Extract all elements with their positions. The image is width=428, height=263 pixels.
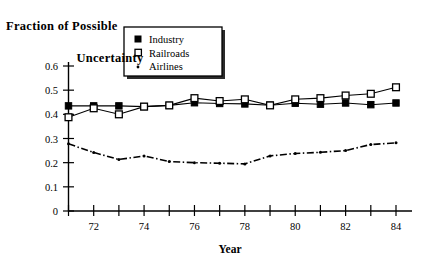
data-point-airlines [117,158,120,161]
data-point-airlines [92,151,95,154]
chart-title-line-1: Fraction of Possible [6,18,196,34]
chart-title: Fraction of Possible Uncertainty [6,2,196,82]
x-axis-ticks: 72747678808284 [69,205,403,232]
y-tick-label: 0.4 [45,109,59,120]
data-point-railroads [367,90,374,97]
y-tick-label: 0.5 [45,85,58,96]
data-point-airlines [269,154,272,157]
data-point-industry [116,103,122,109]
data-series-group [65,84,399,166]
chart-title-line-2: Uncertainty [6,50,196,66]
data-point-industry [65,103,71,109]
data-point-railroads [90,105,97,112]
x-tick-label: 72 [88,221,99,232]
data-point-railroads [342,92,349,99]
y-tick-label: 0 [53,206,58,217]
x-tick-label: 84 [391,221,402,232]
data-point-airlines [369,143,372,146]
x-axis-title: Year [219,243,242,255]
data-point-airlines [395,141,398,144]
data-point-industry [342,100,348,106]
data-point-airlines [67,142,70,145]
data-point-airlines [218,162,221,165]
data-point-railroads [191,95,198,102]
x-tick-label: 80 [290,221,301,232]
data-point-railroads [216,98,223,105]
data-point-industry [393,100,399,106]
data-point-airlines [168,160,171,163]
x-tick-label: 76 [189,221,200,232]
data-point-airlines [143,154,146,157]
chart-container: Fraction of Possible Uncertainty 00.10.2… [0,0,428,263]
data-point-railroads [65,114,72,121]
data-point-railroads [241,96,248,103]
data-point-airlines [319,151,322,154]
y-tick-label: 0.3 [45,134,58,145]
data-point-railroads [292,96,299,103]
series-line-airlines [69,143,397,164]
data-point-airlines [344,149,347,152]
data-point-airlines [193,161,196,164]
data-point-industry [368,101,374,107]
x-tick-label: 74 [139,221,150,232]
data-point-railroads [317,95,324,102]
y-tick-label: 0.2 [45,158,58,169]
data-point-railroads [393,84,400,91]
y-tick-label: 0.1 [45,182,58,193]
data-point-airlines [243,162,246,165]
data-point-railroads [166,102,173,109]
data-point-airlines [294,152,297,155]
x-tick-label: 82 [340,221,351,232]
x-tick-label: 78 [240,221,251,232]
data-point-railroads [267,102,274,109]
data-point-railroads [141,103,148,110]
data-point-railroads [115,111,122,118]
y-axis-ticks: 00.10.20.30.40.50.6 [45,61,74,217]
